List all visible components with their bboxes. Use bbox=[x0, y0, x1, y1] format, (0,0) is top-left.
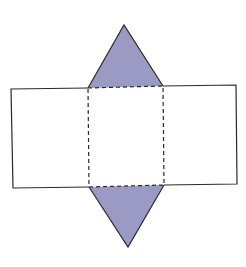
net-svg bbox=[0, 0, 246, 267]
left-rectangle-face bbox=[11, 88, 89, 188]
right-rectangle-face bbox=[163, 85, 237, 185]
top-triangle-face bbox=[88, 25, 163, 88]
bottom-triangle-face bbox=[89, 185, 164, 247]
center-square-fold-lines bbox=[88, 86, 164, 187]
prism-net-diagram: Net of a triangular prism bbox=[0, 0, 246, 267]
